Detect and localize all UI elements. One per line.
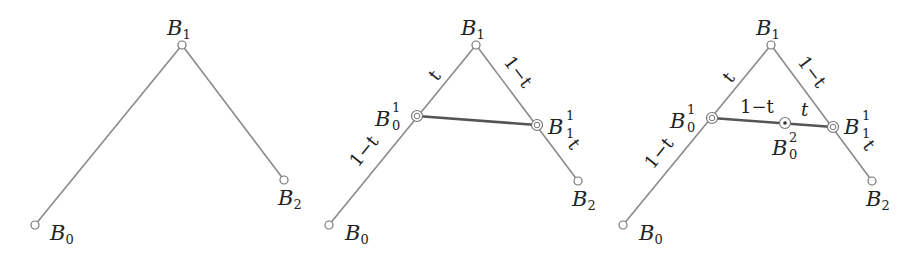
edge-b0-b1 xyxy=(329,45,476,225)
point-b2 xyxy=(868,177,876,185)
label-b1: B1 xyxy=(755,16,780,42)
label-b0: B0 xyxy=(49,221,74,247)
edge-b1-b2 xyxy=(182,45,284,180)
point-b02 xyxy=(780,118,791,129)
point-b0 xyxy=(31,221,39,229)
label-b0: B0 xyxy=(638,221,663,247)
point-b0 xyxy=(619,221,627,229)
label-b01: B 1 0 xyxy=(669,102,695,135)
point-b1 xyxy=(178,41,186,49)
weight-t-upper-left: t xyxy=(424,65,445,84)
segment-b01-b11 xyxy=(417,116,537,125)
svg-text:B: B xyxy=(547,115,563,139)
weight-t-upper-left: t xyxy=(718,67,739,86)
svg-text:1: 1 xyxy=(687,102,695,117)
svg-text:1: 1 xyxy=(566,108,574,123)
weight-1mt-upper-right: 1−t xyxy=(794,52,832,92)
svg-text:1: 1 xyxy=(566,126,574,141)
point-b01 xyxy=(707,113,718,124)
point-b1 xyxy=(767,41,775,49)
svg-text:B: B xyxy=(771,136,787,160)
weight-1mt-midsegment: 1−t xyxy=(740,96,775,117)
label-b2: B2 xyxy=(571,187,596,213)
svg-text:0: 0 xyxy=(789,147,797,162)
panel-1: B1 B0 B2 xyxy=(31,16,302,247)
svg-text:0: 0 xyxy=(687,120,695,135)
svg-text:0: 0 xyxy=(392,118,400,133)
svg-text:B: B xyxy=(669,109,685,133)
label-b11: B 1 1 xyxy=(843,108,870,141)
point-b2 xyxy=(574,177,582,185)
weight-1mt-upper-right: 1−t xyxy=(500,52,538,92)
edge-b0-b1 xyxy=(35,45,182,225)
point-b1 xyxy=(472,41,480,49)
point-b01 xyxy=(412,111,423,122)
svg-text:B: B xyxy=(374,107,390,131)
point-b11 xyxy=(532,120,543,131)
label-b1: B1 xyxy=(166,16,191,42)
weight-t-midsegment: t xyxy=(801,99,809,120)
label-b01: B 1 0 xyxy=(374,100,400,133)
label-b0: B0 xyxy=(344,221,369,247)
weight-1mt-lower-left: 1−t xyxy=(640,132,678,172)
segment-b01-b11 xyxy=(712,118,833,127)
point-b0 xyxy=(325,221,333,229)
de-casteljau-diagram: B1 B0 B2 B1 B0 B2 B 1 0 B 1 1 xyxy=(0,0,918,254)
panel-2: B1 B0 B2 B 1 0 B 1 1 t 1−t 1−t t xyxy=(325,16,596,247)
weight-1mt-lower-left: 1−t xyxy=(345,130,383,170)
point-b11 xyxy=(828,122,839,133)
svg-text:1: 1 xyxy=(862,126,870,141)
edge-b0-b1 xyxy=(623,45,771,225)
panel-3: B1 B0 B2 B 1 0 B 1 1 B 2 0 t 1−t 1−t t 1… xyxy=(619,16,890,247)
svg-text:B: B xyxy=(843,115,859,139)
label-b1: B1 xyxy=(460,16,485,42)
label-b11: B 1 1 xyxy=(547,108,574,141)
label-b2: B2 xyxy=(865,187,890,213)
svg-text:2: 2 xyxy=(789,130,797,145)
label-b2: B2 xyxy=(277,186,302,212)
label-b02: B 2 0 xyxy=(771,130,797,162)
svg-text:1: 1 xyxy=(862,108,870,123)
point-b2 xyxy=(280,176,288,184)
svg-text:1: 1 xyxy=(392,100,400,115)
